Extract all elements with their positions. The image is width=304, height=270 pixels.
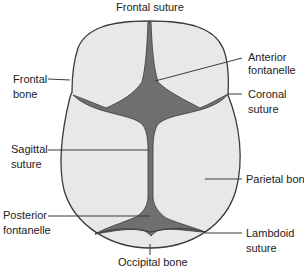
label-occipital-bone: Occipital bone	[118, 256, 188, 269]
label-lambdoid-suture-line2: suture	[246, 242, 294, 255]
label-sagittal-suture: Sagittal suture	[11, 143, 48, 171]
label-sagittal-suture-line2: suture	[11, 158, 48, 171]
label-coronal-suture-line1: Coronal	[248, 88, 287, 101]
label-frontal-bone-line2: bone	[13, 88, 47, 101]
label-coronal-suture: Coronal suture	[248, 88, 287, 116]
label-lambdoid-suture-line1: Lambdoid	[246, 227, 294, 240]
label-lambdoid-suture: Lambdoid suture	[246, 227, 294, 255]
leader-frontal-bone	[48, 79, 70, 80]
label-posterior-fontanelle-line2: fontanelle	[3, 224, 51, 237]
label-anterior-fontanelle-line2: fontanelle	[248, 64, 296, 77]
label-parietal-bone: Parietal bone	[246, 173, 304, 186]
label-anterior-fontanelle-line1: Anterior	[248, 51, 296, 64]
label-sagittal-suture-line1: Sagittal	[11, 143, 48, 156]
label-posterior-fontanelle: Posterior fontanelle	[3, 209, 51, 237]
label-frontal-bone: Frontal bone	[13, 73, 47, 101]
label-coronal-suture-line2: suture	[248, 103, 287, 116]
label-anterior-fontanelle: Anterior fontanelle	[248, 51, 296, 77]
label-posterior-fontanelle-line1: Posterior	[3, 209, 51, 222]
label-frontal-suture: Frontal suture	[116, 1, 184, 14]
label-frontal-bone-line1: Frontal	[13, 73, 47, 86]
